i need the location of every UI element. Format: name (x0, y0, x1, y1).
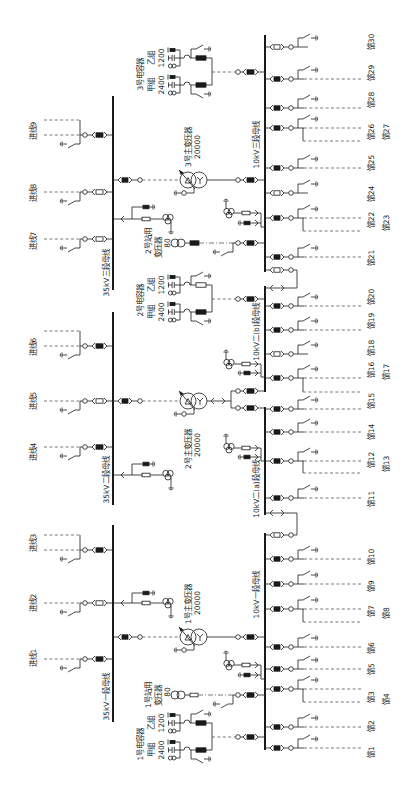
plug-right-icon (129, 177, 132, 183)
feeder: 馈5 (265, 656, 376, 675)
plug-right-icon (104, 189, 107, 195)
plug-left-icon (92, 600, 95, 606)
feeder: 馈3馈4 (265, 676, 391, 705)
pt-10kv (223, 434, 265, 461)
bus-label: 10kV二(b)段母线 (251, 302, 261, 361)
breaker-open-icon (274, 45, 280, 49)
feeder-label: 馈5 (366, 663, 376, 675)
plug-left-icon (243, 388, 246, 394)
plug-left-icon (92, 189, 95, 195)
breaker-closed (270, 105, 284, 111)
bus-10kv: 10kV二(b)段母线 (251, 286, 266, 392)
breaker-closed (243, 177, 258, 183)
breaker-open (270, 532, 284, 538)
switch-blade (303, 205, 310, 209)
winding (177, 691, 185, 699)
wye-icon (200, 398, 203, 401)
capacitor-group-label: 甲组 (146, 742, 156, 757)
plug-right-icon (281, 745, 284, 751)
plug-right-icon (255, 296, 258, 302)
incoming-line-label: 进线2 (28, 593, 38, 612)
capacitor-group: 乙组1200 (146, 45, 213, 68)
feeder: 馈24 (265, 180, 376, 202)
plug-left-icon (92, 132, 95, 138)
breaker-closed (270, 76, 284, 82)
capacitor-group: 乙组1200 (146, 710, 213, 733)
breaker-closed-icon (196, 56, 206, 60)
plug-right-icon (281, 375, 284, 381)
current-transformer-icon (289, 255, 294, 260)
plug-left-icon (270, 429, 273, 435)
breaker-closed-icon (274, 582, 280, 586)
breaker-closed-icon (274, 430, 280, 434)
wye-icon (200, 634, 203, 637)
capacitor-group: 乙组1200 (146, 272, 213, 295)
plug-left-icon (92, 444, 95, 450)
switch-blade (68, 410, 75, 414)
current-transformer-icon (289, 328, 294, 333)
plug-left-icon (92, 236, 95, 242)
plug-left-icon (92, 343, 95, 349)
breaker-closed (118, 634, 132, 640)
plug-left-icon (118, 177, 121, 183)
feeder-label: 馈29 (366, 65, 376, 82)
plug-right-icon (255, 69, 258, 75)
earth-switch (298, 66, 318, 79)
feeder: 馈18 (265, 340, 376, 357)
incoming-line-label: 进线5 (28, 391, 38, 410)
fuse-icon (242, 446, 250, 450)
switch-blade (68, 559, 75, 563)
neutral-grounding (174, 187, 194, 196)
breaker-closed-icon (247, 70, 254, 74)
breaker-closed (270, 215, 284, 221)
neutral-grounding (174, 408, 194, 417)
switch-blade (196, 759, 203, 763)
breaker-closed (270, 406, 284, 412)
breaker-closed (270, 327, 284, 333)
breaker-closed-icon (196, 721, 206, 725)
current-transformer-icon (83, 190, 88, 195)
feeder: 馈30 (265, 34, 376, 51)
feeder: 馈16馈17 (265, 362, 391, 392)
earth-switch (298, 365, 318, 378)
capacitor-group: 甲组2400 (146, 74, 213, 98)
plug-left-icon (270, 606, 273, 612)
bus-tie (265, 510, 297, 538)
current-transformer-icon (289, 430, 294, 435)
earth-switch (298, 546, 318, 559)
bus-tie (265, 267, 297, 291)
breaker-closed-icon (274, 376, 280, 380)
fuse-icon (142, 601, 150, 605)
breaker-closed-icon (196, 83, 206, 87)
earth-switch (60, 659, 80, 672)
breaker-closed-icon (122, 178, 128, 182)
plug-right-icon (104, 444, 107, 450)
transformer-icon (179, 391, 207, 410)
switch-blade (303, 676, 310, 680)
current-transformer-icon (236, 70, 241, 75)
feeder: 馈22馈23 (265, 205, 391, 231)
station-transformer-name: 1号站用 (143, 682, 153, 708)
breaker-closed-icon (274, 304, 280, 308)
breaker-closed-icon (274, 607, 280, 611)
incoming-line-label: 进线6 (28, 337, 38, 356)
plug-left-icon (243, 692, 246, 698)
plug-right-icon (255, 734, 258, 740)
breaker-closed (270, 644, 284, 650)
feeder-branch-label: 馈13 (381, 456, 391, 473)
fuse-icon (242, 211, 250, 215)
plug-left-icon (92, 656, 95, 662)
breaker-open (270, 351, 284, 357)
arrester-icon (244, 221, 250, 225)
plug-left-icon (270, 745, 273, 751)
plug-right-icon (281, 495, 284, 501)
breaker-closed (270, 125, 284, 131)
current-transformer-icon (236, 297, 241, 302)
breaker-open (92, 189, 107, 195)
plug-left-icon (270, 458, 273, 464)
plug-right-icon (129, 398, 132, 404)
switch-blade (196, 272, 203, 276)
breaker-closed-icon (274, 725, 280, 729)
breaker-closed-icon (96, 344, 103, 348)
earth-switch (298, 293, 318, 306)
